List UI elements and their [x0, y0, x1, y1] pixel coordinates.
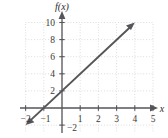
- y-tick-label-10: 10: [46, 18, 56, 28]
- x-axis-label: x: [159, 103, 165, 114]
- x-tick-label-2: 2: [96, 114, 101, 124]
- y-tick-label-6: 6: [50, 52, 55, 62]
- coordinate-plane: 10 8 6 4 2 −2 −2 −1 1 2 3 4 5 f(x) x: [0, 0, 168, 138]
- y-tick-label-8: 8: [50, 35, 55, 45]
- y-tick-label-2: 2: [50, 86, 55, 96]
- graph-figure: 10 8 6 4 2 −2 −2 −1 1 2 3 4 5 f(x) x: [0, 0, 168, 138]
- x-tick-label-5: 5: [151, 114, 156, 124]
- x-tick-labels: −2 −1 1 2 3 4 5: [21, 114, 156, 124]
- x-tick-label-3: 3: [114, 114, 119, 124]
- x-tick-label-neg2: −2: [21, 114, 31, 124]
- x-tick-label-1: 1: [78, 114, 83, 124]
- x-axis-arrowhead: [150, 105, 158, 112]
- x-tick-label-neg1: −1: [40, 114, 50, 124]
- y-tick-label-neg2: −2: [67, 123, 77, 133]
- tick-marks: [26, 23, 153, 126]
- y-axis-arrowhead: [59, 11, 66, 19]
- function-axis-label: f(x): [55, 1, 70, 13]
- x-tick-label-4: 4: [132, 114, 137, 124]
- y-tick-label-4: 4: [50, 69, 55, 79]
